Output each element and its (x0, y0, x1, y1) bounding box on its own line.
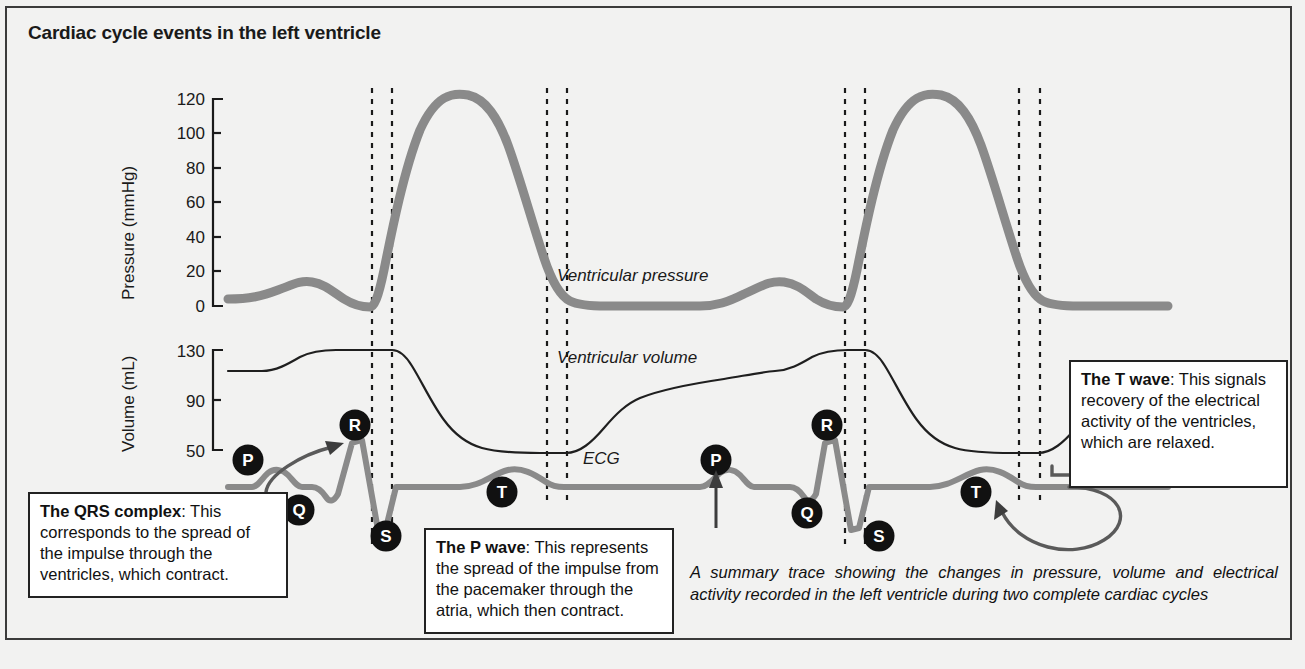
pressure-tick-60: 60 (186, 193, 205, 212)
callout-t-wave: The T wave: This signals recovery of the… (1069, 360, 1288, 488)
ecg-marker-r-7: R (812, 410, 843, 441)
pressure-tick-20: 20 (186, 262, 205, 281)
volume-tick-90: 90 (186, 392, 205, 411)
callout-qrs-complex: The QRS complex: This corresponds to the… (28, 492, 288, 598)
event-dashed-lines (372, 88, 1040, 545)
marker-letter: R (349, 416, 361, 435)
marker-letter: R (821, 416, 833, 435)
marker-letter: S (380, 527, 391, 546)
volume-tick-50: 50 (186, 442, 205, 461)
pressure-tick-40: 40 (186, 228, 205, 247)
callout-p-title: The P wave (436, 538, 526, 556)
pressure-tick-100: 100 (177, 124, 205, 143)
callout-p-wave: The P wave: This represents the spread o… (424, 528, 674, 634)
marker-letter: Q (292, 501, 305, 520)
ecg-marker-p-0: P (233, 445, 264, 476)
ecg-marker-t-9: T (961, 477, 992, 508)
pressure-tick-80: 80 (186, 159, 205, 178)
ecg-marker-r-2: R (340, 410, 371, 441)
marker-letter: P (242, 451, 253, 470)
ecg-marker-s-8: S (864, 521, 895, 552)
ecg-marker-q-1: Q (284, 495, 315, 526)
pressure-axis-label: Pressure (mmHg) (119, 166, 138, 300)
figure-caption: A summary trace showing the changes in p… (690, 561, 1278, 605)
ecg-marker-t-4: T (487, 477, 518, 508)
marker-letter: Q (800, 504, 813, 523)
volume-axis: 130 90 50 Volume (mL) (119, 342, 223, 461)
callout-qrs-title: The QRS complex (40, 502, 181, 520)
ecg-marker-s-3: S (371, 521, 402, 552)
marker-letter: T (971, 483, 982, 502)
volume-tick-130: 130 (177, 342, 205, 361)
marker-letter: S (873, 527, 884, 546)
ecg-marker-q-6: Q (792, 498, 823, 529)
ventricular-volume-label: Ventricular volume (557, 348, 697, 367)
pressure-tick-0: 0 (196, 297, 205, 316)
marker-letter: P (710, 451, 721, 470)
figure-page: Cardiac cycle events in the left ventric… (0, 0, 1305, 669)
callout-t-title: The T wave (1081, 370, 1170, 388)
ventricular-pressure-label: Ventricular pressure (557, 266, 709, 285)
pressure-axis: 120 100 80 60 40 20 0 Pressure (mmHg) (119, 90, 223, 316)
ecg-label: ECG (583, 449, 620, 468)
marker-letter: T (497, 483, 508, 502)
volume-axis-label: Volume (mL) (119, 356, 138, 452)
pressure-tick-120: 120 (177, 90, 205, 109)
